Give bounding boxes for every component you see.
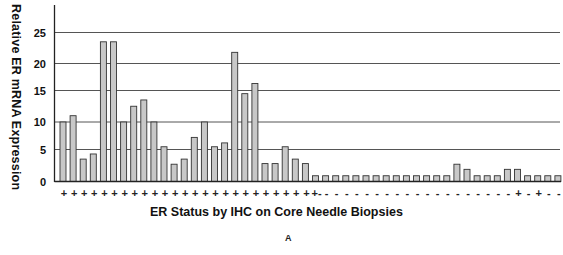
bar <box>444 176 450 182</box>
bar <box>131 106 137 181</box>
bar <box>424 176 430 182</box>
bar <box>484 176 490 182</box>
bar <box>494 176 500 182</box>
bar <box>323 176 329 182</box>
bar <box>141 100 147 182</box>
x-category-label: + <box>283 187 289 199</box>
x-category-label: + <box>202 187 208 199</box>
x-category-label: + <box>131 187 137 199</box>
x-category-label: + <box>101 187 107 199</box>
bar <box>292 159 298 181</box>
bar <box>111 42 117 182</box>
y-tick-label: 5 <box>40 144 46 156</box>
x-category-label: - <box>486 187 490 199</box>
bar <box>232 52 238 181</box>
y-tick-label: 10 <box>34 116 46 128</box>
y-tick-label: 0 <box>40 176 46 188</box>
bar <box>363 176 369 182</box>
bar <box>525 176 531 182</box>
bar <box>80 159 86 181</box>
x-category-label: + <box>273 187 279 199</box>
x-category-label: + <box>212 187 218 199</box>
x-category-label: + <box>111 187 117 199</box>
bar <box>515 169 521 181</box>
bar <box>313 176 319 182</box>
y-tick-label: 20 <box>34 58 46 70</box>
bar <box>464 169 470 181</box>
x-category-label: + <box>172 187 178 199</box>
bar <box>222 143 228 182</box>
bar <box>403 176 409 182</box>
x-category-label: - <box>385 187 389 199</box>
bar <box>262 164 268 182</box>
bar <box>70 116 76 182</box>
x-category-label: - <box>345 187 349 199</box>
bar <box>161 147 167 182</box>
y-tick-label: 25 <box>34 27 46 39</box>
x-category-label: + <box>81 187 87 199</box>
x-category-label: - <box>446 187 450 199</box>
bar <box>373 176 379 182</box>
bar <box>474 176 480 182</box>
x-category-label: - <box>507 187 511 199</box>
x-category-label: + <box>222 187 228 199</box>
x-category-label: - <box>476 187 480 199</box>
bar <box>90 154 96 182</box>
x-category-label: - <box>547 187 551 199</box>
x-category-label: - <box>406 187 410 199</box>
x-category-label: + <box>515 187 521 199</box>
x-category-label: - <box>496 187 500 199</box>
bars <box>60 42 561 182</box>
bar <box>302 164 308 182</box>
bar <box>535 176 541 182</box>
bar <box>151 122 157 182</box>
x-category-label: + <box>263 187 269 199</box>
bar <box>181 159 187 181</box>
x-category-label: + <box>192 187 198 199</box>
x-category-label: - <box>466 187 470 199</box>
x-category-label: + <box>91 187 97 199</box>
bar <box>353 176 359 182</box>
x-category-label: + <box>293 187 299 199</box>
bar <box>282 147 288 182</box>
bar <box>343 176 349 182</box>
panel-label: A <box>285 233 292 243</box>
bar <box>242 94 248 182</box>
y-tick-label: 15 <box>34 85 46 97</box>
bar <box>504 169 510 181</box>
x-category-labels: ++++++++++++++++++++++++++--------------… <box>61 187 561 199</box>
x-category-label: - <box>527 187 531 199</box>
x-category-label: - <box>325 187 329 199</box>
bar <box>171 164 177 181</box>
bar <box>272 164 278 182</box>
x-axis-title: ER Status by IHC on Core Needle Biopsies <box>150 205 403 219</box>
bar <box>393 176 399 182</box>
x-category-label: - <box>416 187 420 199</box>
bar <box>60 122 66 182</box>
bar <box>333 176 339 182</box>
x-category-label: + <box>152 187 158 199</box>
x-category-label: + <box>142 187 148 199</box>
x-category-label: + <box>162 187 168 199</box>
y-tick-labels: 0510152025 <box>34 27 46 188</box>
x-category-label: - <box>557 187 561 199</box>
x-category-label: - <box>375 187 379 199</box>
x-category-label: - <box>456 187 460 199</box>
y-axis-title: Relative ER mRNA Expression <box>7 4 23 184</box>
bar <box>212 147 218 182</box>
bar <box>555 176 561 182</box>
bar <box>414 176 420 182</box>
bar <box>454 164 460 181</box>
bar <box>100 42 106 182</box>
x-category-label: + <box>232 187 238 199</box>
x-category-label: + <box>535 187 541 199</box>
x-category-label: + <box>121 187 127 199</box>
x-category-label: + <box>303 187 309 199</box>
bar <box>252 83 258 181</box>
bar <box>545 176 551 182</box>
x-category-label: - <box>426 187 430 199</box>
bar <box>383 176 389 182</box>
x-category-label: + <box>61 187 67 199</box>
x-category-label: - <box>395 187 399 199</box>
x-category-label: - <box>335 187 339 199</box>
